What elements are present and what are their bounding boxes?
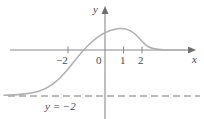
function-plot <box>0 0 204 119</box>
function-curve <box>4 29 186 96</box>
y-axis-arrow-icon <box>102 6 109 14</box>
tick-label-neg2: −2 <box>56 55 68 66</box>
graph-figure: y x 0 −2 1 2 y = −2 <box>0 0 204 119</box>
x-axis-label: x <box>192 54 197 65</box>
tick-label-1: 1 <box>120 55 126 66</box>
tick-label-2: 2 <box>138 55 144 66</box>
asymptote-label: y = −2 <box>45 101 76 112</box>
origin-label: 0 <box>96 55 102 66</box>
y-axis-label: y <box>93 4 98 15</box>
